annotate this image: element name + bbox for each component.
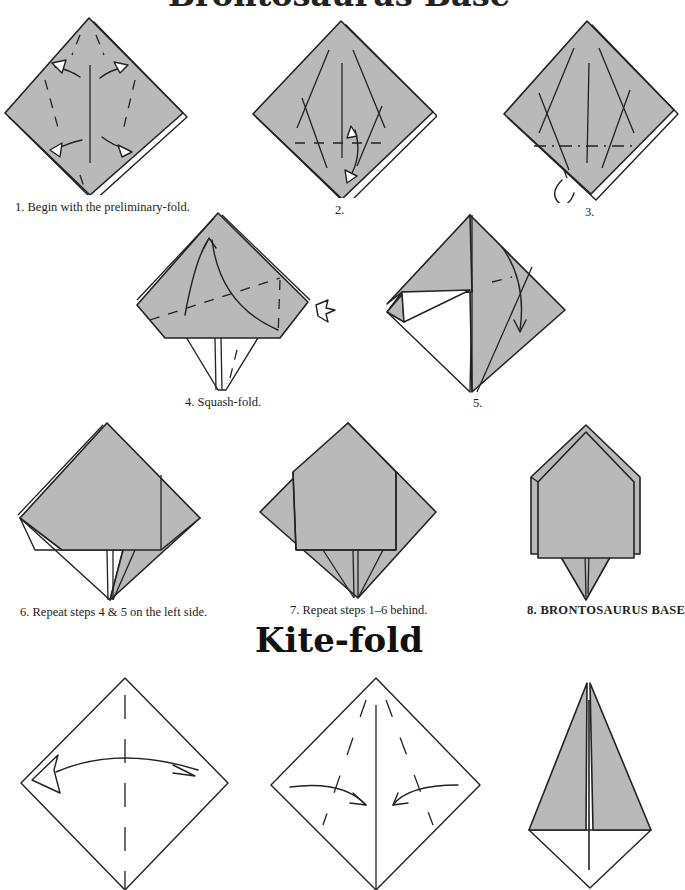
brontosaurus-base-icon <box>528 422 648 602</box>
step-2-diagram <box>247 18 437 198</box>
step-7-diagram <box>258 420 443 600</box>
petal-fold-icon <box>382 212 572 394</box>
valley-fold-diagonal-unfold-icon <box>18 675 233 890</box>
step-3-diagram <box>494 18 684 203</box>
step-8-diagram <box>528 422 648 602</box>
kite-folds-icon <box>247 18 437 198</box>
step-5-diagram <box>382 212 572 394</box>
kite-result-icon <box>525 680 655 890</box>
step-8-caption: 8. BRONTOSAURUS BASE <box>527 603 685 618</box>
step-6-diagram <box>15 420 205 602</box>
section-title-kite-fold: Kite-fold <box>0 620 678 660</box>
step-1-diagram <box>0 15 190 195</box>
step-4-caption: 4. Squash-fold. <box>185 395 261 410</box>
step-7-caption: 7. Repeat steps 1–6 behind. <box>290 603 427 618</box>
step-6-caption: 6. Repeat steps 4 & 5 on the left side. <box>20 605 207 620</box>
fold-edges-to-center-icon <box>268 675 483 890</box>
step-3-caption: 3. <box>585 205 594 220</box>
repeat-left-icon <box>15 420 205 602</box>
step-5-caption: 5. <box>473 396 482 411</box>
squash-fold-icon <box>130 210 345 392</box>
kite-step-3-diagram <box>525 680 655 890</box>
top-heading: Brontosaurus Base <box>0 0 678 14</box>
repeat-behind-icon <box>258 420 443 600</box>
mountain-fold-icon <box>494 18 684 203</box>
kite-step-1-diagram <box>18 675 233 890</box>
kite-step-2-diagram <box>268 675 483 890</box>
preliminary-fold-icon <box>0 15 190 195</box>
step-4-diagram <box>130 210 345 392</box>
